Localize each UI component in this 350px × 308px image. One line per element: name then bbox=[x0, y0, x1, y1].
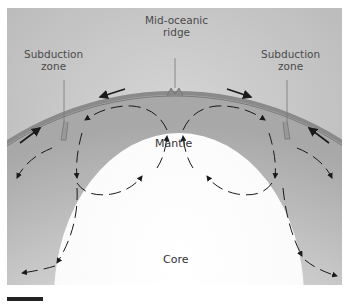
ridge-label-line1: Mid-oceanic bbox=[145, 14, 208, 26]
mid-oceanic-ridge-label: Mid-oceanic ridge bbox=[145, 14, 208, 38]
subduction-zone-left-label: Subduction zone bbox=[24, 48, 83, 72]
subduction-right-line2: zone bbox=[261, 60, 320, 72]
core-label: Core bbox=[163, 254, 188, 266]
caption-bar bbox=[7, 297, 43, 301]
subduction-zone-right-label: Subduction zone bbox=[261, 48, 320, 72]
subduction-left-line1: Subduction bbox=[24, 48, 83, 60]
mantle-label: Mantle bbox=[155, 138, 192, 150]
mantle-convection-diagram: Mid-oceanic ridge Subduction zone Subduc… bbox=[7, 8, 342, 285]
ridge-label-line2: ridge bbox=[145, 26, 208, 38]
subduction-left-line2: zone bbox=[24, 60, 83, 72]
subduction-right-line1: Subduction bbox=[261, 48, 320, 60]
